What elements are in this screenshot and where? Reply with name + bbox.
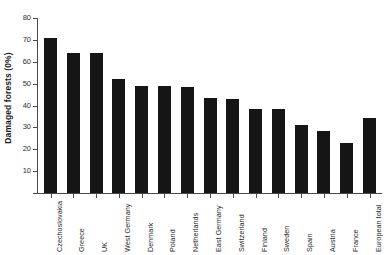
y-tick-label: 70 xyxy=(23,35,31,44)
x-axis-label-text: West Germany xyxy=(123,204,132,252)
x-axis-label-text: Poland xyxy=(168,229,177,252)
bar xyxy=(90,53,103,193)
x-axis-label-text: East Germany xyxy=(214,205,223,252)
y-tick-label: 80 xyxy=(23,13,31,22)
x-axis-label-text: Czechoslovakia xyxy=(55,201,64,252)
y-tick-mark xyxy=(33,127,37,128)
bar xyxy=(181,87,194,193)
x-axis-label-text: Netherlands xyxy=(191,213,200,252)
bar-chart-figure: Damaged forests (0%) 1020304050607080 Cz… xyxy=(0,0,390,255)
y-tick-label: 40 xyxy=(23,101,31,110)
bar xyxy=(226,99,239,193)
y-tick-mark xyxy=(33,18,37,19)
y-tick-mark xyxy=(33,106,37,107)
x-axis-label-text: European total xyxy=(374,205,383,252)
y-tick-label: 10 xyxy=(23,166,31,175)
bar xyxy=(135,86,148,193)
x-axis-label-text: France xyxy=(351,229,360,252)
y-axis-title: Damaged forests (0%) xyxy=(0,0,16,195)
y-tick-mark xyxy=(33,62,37,63)
bar xyxy=(158,86,171,193)
y-tick-mark xyxy=(33,40,37,41)
bar xyxy=(204,98,217,193)
bar xyxy=(67,53,80,193)
bar xyxy=(272,109,285,193)
y-axis-line xyxy=(37,18,38,193)
y-tick-label: 60 xyxy=(23,57,31,66)
x-axis-label-text: Sweden xyxy=(282,226,291,252)
y-tick-mark xyxy=(33,84,37,85)
x-axis-label-text: Denmark xyxy=(146,222,155,252)
y-tick-mark xyxy=(33,149,37,150)
x-axis-label-text: Greece xyxy=(77,228,86,252)
y-tick-label: 30 xyxy=(23,122,31,131)
x-axis-label-text: Finland xyxy=(260,228,269,252)
bar xyxy=(295,125,308,193)
x-axis-label-text: UK xyxy=(100,242,109,252)
x-axis-label-text: Spain xyxy=(305,233,314,252)
plot-area: 1020304050607080 xyxy=(37,18,382,193)
y-tick-mark xyxy=(33,193,37,194)
x-axis-labels: CzechoslovakiaGreeceUKWest GermanyDenmar… xyxy=(37,196,382,255)
bar xyxy=(317,131,330,193)
y-tick-mark xyxy=(33,171,37,172)
bar xyxy=(340,143,353,193)
bar xyxy=(363,118,376,193)
y-tick-label: 20 xyxy=(23,144,31,153)
bar xyxy=(112,79,125,193)
y-axis-title-text: Damaged forests (0%) xyxy=(3,52,13,143)
x-axis-label-text: Austria xyxy=(328,229,337,252)
y-tick-label: 50 xyxy=(23,79,31,88)
x-axis-label-text: Switzerland xyxy=(237,214,246,252)
bar xyxy=(249,109,262,193)
bar xyxy=(44,38,57,193)
